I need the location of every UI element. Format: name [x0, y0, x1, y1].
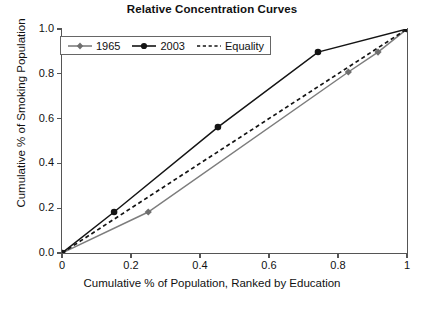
y-tick-label: 0.0	[8, 246, 54, 258]
x-tick-mark	[406, 253, 407, 258]
legend-marker-circle-icon	[131, 41, 157, 51]
legend-item-1965[interactable]: 1965	[67, 40, 120, 52]
legend-item-equality[interactable]: Equality	[196, 40, 264, 52]
legend-label-equality: Equality	[225, 40, 264, 52]
series-equality	[62, 29, 407, 253]
legend-label-1965: 1965	[96, 40, 120, 52]
x-tick-mark	[268, 253, 269, 258]
chart-title: Relative Concentration Curves	[0, 3, 424, 15]
x-tick-mark	[337, 253, 338, 258]
legend-item-2003[interactable]: 2003	[131, 40, 184, 52]
y-tick-label: 0.4	[8, 156, 54, 168]
y-tick-label: 0.8	[8, 67, 54, 79]
plot-area	[62, 29, 407, 253]
y-tick-label: 0.2	[8, 201, 54, 213]
x-axis-label: Cumulative % of Population, Ranked by Ed…	[0, 277, 424, 289]
x-tick-mark	[199, 253, 200, 258]
legend-label-2003: 2003	[160, 40, 184, 52]
x-tick-mark	[130, 253, 131, 258]
x-tick-label: 0.6	[246, 259, 292, 271]
x-tick-mark	[61, 253, 62, 258]
chart-legend: 1965 2003 Equality	[60, 36, 271, 55]
x-tick-label: 0.4	[177, 259, 223, 271]
x-tick-label: 0	[39, 259, 85, 271]
x-tick-label: 1	[384, 259, 424, 271]
x-tick-label: 0.8	[315, 259, 361, 271]
y-tick-label: 1.0	[8, 22, 54, 34]
data-point-marker	[111, 209, 118, 216]
series-canvas	[62, 29, 407, 253]
legend-marker-diamond-icon	[67, 41, 93, 51]
chart-figure: Relative Concentration Curves Cumulative…	[0, 0, 424, 309]
data-point-marker	[215, 124, 222, 131]
series-line	[62, 29, 407, 253]
data-point-marker	[315, 49, 322, 56]
legend-marker-dashed-icon	[196, 41, 222, 51]
y-tick-label: 0.6	[8, 112, 54, 124]
x-tick-label: 0.2	[108, 259, 154, 271]
